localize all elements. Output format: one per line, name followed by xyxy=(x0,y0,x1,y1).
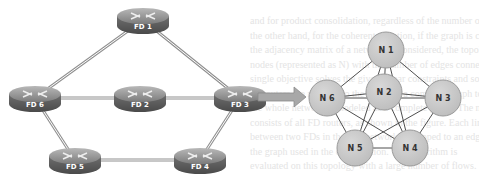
node-n6: N 6 xyxy=(309,80,345,116)
router-label: FD 1 xyxy=(134,23,152,31)
node-label: N 1 xyxy=(378,46,393,55)
network-diagram: FD 1FD 2FD 3FD 4FD 5FD 6 N 1N 2N 3N 4N 5… xyxy=(0,0,479,188)
router-fd4: FD 4 xyxy=(174,148,226,174)
node-n3: N 3 xyxy=(425,80,461,116)
node-label: N 5 xyxy=(347,144,362,153)
node-label: N 2 xyxy=(376,88,391,97)
router-fd5: FD 5 xyxy=(49,148,101,174)
node-n5: N 5 xyxy=(337,130,373,166)
router-label: FD 3 xyxy=(231,101,249,109)
node-n1: N 1 xyxy=(368,32,404,68)
router-fd2: FD 2 xyxy=(114,86,166,112)
node-label: N 6 xyxy=(319,94,334,103)
node-label: N 4 xyxy=(402,144,417,153)
routers: FD 1FD 2FD 3FD 4FD 5FD 6 xyxy=(9,8,266,174)
graph-nodes: N 1N 2N 3N 4N 5N 6 xyxy=(309,32,461,166)
router-fd1: FD 1 xyxy=(117,8,169,34)
node-n4: N 4 xyxy=(392,130,428,166)
router-fd6: FD 6 xyxy=(9,86,61,112)
router-label: FD 4 xyxy=(191,163,209,171)
node-n2: N 2 xyxy=(366,74,402,110)
router-label: FD 5 xyxy=(66,163,84,171)
node-label: N 3 xyxy=(435,94,450,103)
router-label: FD 2 xyxy=(131,101,149,109)
router-label: FD 6 xyxy=(26,101,44,109)
